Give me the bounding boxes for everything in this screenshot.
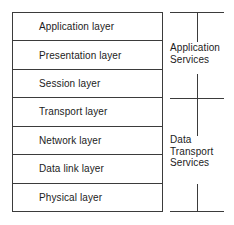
group-bracket-tick-lower xyxy=(197,184,198,212)
layer-stack: Application layer Presentation layer Ses… xyxy=(12,12,163,212)
layer-row: Network layer xyxy=(13,127,162,155)
group-label-line: Application xyxy=(170,42,220,54)
group-label-data-transport-services: Data Transport Services xyxy=(170,134,213,169)
layer-row: Session layer xyxy=(13,70,162,98)
group-label-application-services: Application Services xyxy=(170,42,220,65)
group-bracket-tick-upper-lower xyxy=(197,74,198,98)
layer-label-presentation: Presentation layer xyxy=(39,50,121,61)
group-bracket-tick-lower-upper xyxy=(197,98,198,136)
layer-row: Physical layer xyxy=(13,184,162,211)
group-label-line: Data xyxy=(170,134,213,146)
layer-row: Application layer xyxy=(13,13,162,41)
layer-label-transport: Transport layer xyxy=(39,106,107,117)
layer-label-data-link: Data link layer xyxy=(39,163,104,174)
osi-layer-diagram: Application layer Presentation layer Ses… xyxy=(0,0,234,225)
group-label-line: Transport xyxy=(170,146,213,158)
layer-label-application: Application layer xyxy=(39,21,114,32)
layer-row: Presentation layer xyxy=(13,41,162,69)
service-group-panel: Application Services Data Transport Serv… xyxy=(170,12,224,212)
layer-label-physical: Physical layer xyxy=(39,192,102,203)
layer-label-session: Session layer xyxy=(39,78,100,89)
layer-label-network: Network layer xyxy=(39,135,101,146)
group-label-line: Services xyxy=(170,157,213,169)
group-bracket-tick-upper xyxy=(197,12,198,42)
layer-row: Data link layer xyxy=(13,155,162,183)
layer-row: Transport layer xyxy=(13,98,162,126)
group-label-line: Services xyxy=(170,54,220,66)
